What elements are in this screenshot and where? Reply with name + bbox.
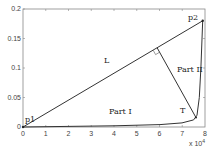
label-p2: p2	[188, 13, 198, 22]
x-tick-1: 1	[44, 130, 48, 137]
x-tick-0: 0	[21, 130, 25, 137]
p2-marker	[202, 20, 204, 22]
x-tick-7: 7	[180, 130, 184, 137]
label-T: T	[180, 106, 186, 115]
foot-marker	[195, 117, 197, 119]
label-part-1: Part I	[109, 107, 132, 116]
y-tick-4: 0.2	[11, 5, 21, 12]
x-tick-8: 8	[203, 130, 207, 137]
x-tick-2: 2	[67, 130, 71, 137]
label-p1: p1	[25, 115, 35, 124]
x-tick-3: 3	[89, 130, 93, 137]
x-scale-label: x 104	[189, 138, 205, 147]
x-tick-6: 6	[158, 130, 162, 137]
chart: 0 0.05 0.1 0.15 0.2 0 1 2 3 4 5 6 7 8 x …	[0, 0, 217, 149]
p1-marker	[22, 126, 24, 128]
label-part-2: Part II	[177, 65, 203, 74]
y-tick-0: 0	[17, 123, 21, 130]
label-L: L	[104, 56, 110, 65]
y-tick-1: 0.05	[7, 94, 21, 101]
perpendicular-segment	[157, 48, 196, 118]
x-tick-4: 4	[112, 130, 116, 137]
x-tick-5: 5	[135, 130, 139, 137]
y-tick-2: 0.1	[11, 64, 21, 71]
y-tick-3: 0.15	[7, 35, 21, 42]
